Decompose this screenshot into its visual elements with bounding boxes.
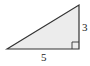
base-label: 5 xyxy=(41,51,47,63)
height-label: 3 xyxy=(82,21,88,33)
triangle-shape xyxy=(7,5,79,49)
right-triangle-diagram: 3 5 xyxy=(0,0,90,66)
